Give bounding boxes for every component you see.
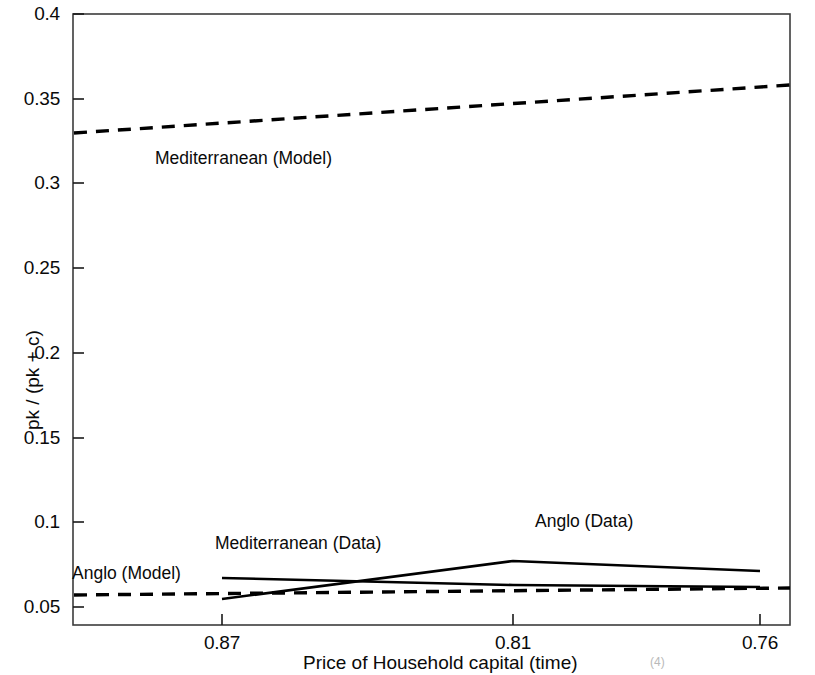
y-tick-label-1: 0.1: [0, 511, 60, 533]
x-axis-ticks: [222, 614, 760, 625]
series-label-mediterranean-data: Mediterranean (Data): [215, 533, 381, 554]
scan-artifact: (4): [650, 655, 665, 669]
x-tick-label-2: 0.76: [742, 632, 778, 654]
y-tick-label-4: 0.25: [0, 257, 60, 279]
y-tick-label-5: 0.3: [0, 172, 60, 194]
series-label-anglo-data: Anglo (Data): [535, 511, 633, 532]
series-line-mediterranean-data: [222, 578, 760, 587]
y-axis-ticks: [73, 14, 84, 607]
x-axis-title: Price of Household capital (time): [303, 652, 578, 674]
y-tick-label-7: 0.4: [0, 3, 60, 25]
series-line-anglo-model: [74, 588, 790, 595]
x-tick-label-0: 0.87: [204, 632, 240, 654]
y-tick-label-0: 0.05: [0, 596, 60, 618]
series-label-anglo-model: Anglo (Model): [72, 563, 181, 584]
y-tick-label-2: 0.15: [0, 427, 60, 449]
y-axis-title: pk / (pk + c): [22, 330, 44, 430]
chart-figure: 0.05 0.1 0.15 0.2 0.25 0.3 0.35 0.4 0.87…: [0, 0, 815, 675]
y-tick-label-6: 0.35: [0, 88, 60, 110]
x-tick-label-1: 0.81: [495, 632, 531, 654]
series-line-mediterranean-model: [74, 85, 790, 133]
series-label-mediterranean-model: Mediterranean (Model): [155, 148, 332, 169]
plot-frame: [73, 14, 790, 625]
